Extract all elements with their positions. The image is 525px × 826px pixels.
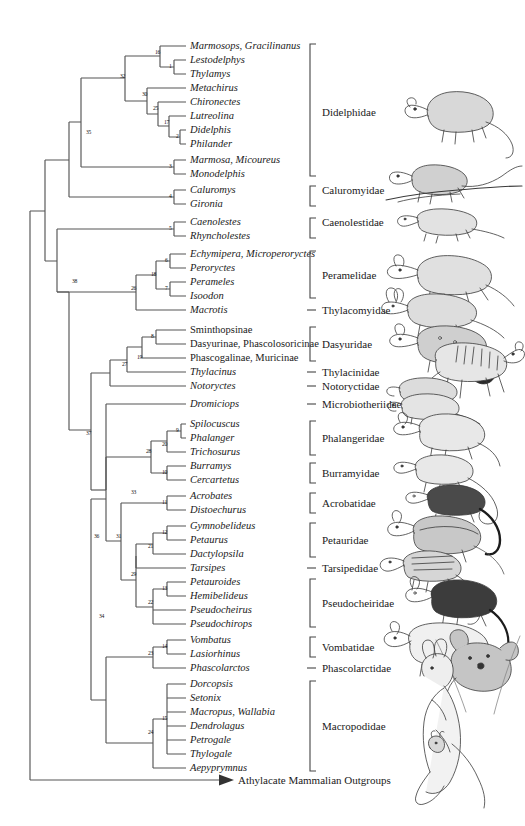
node-number: 36 <box>94 533 99 539</box>
family-label: Phascolarctidae <box>322 662 391 674</box>
family-label: Macropodidae <box>322 720 386 732</box>
family-label: Dasyuridae <box>322 338 372 350</box>
node-number: 26 <box>131 285 136 291</box>
family-label: Phalangeridae <box>322 432 384 444</box>
family-label: Microbiotheriidae <box>322 398 401 410</box>
node-number: 9 <box>176 427 179 433</box>
node-number: 38 <box>72 278 77 284</box>
node-number: 12 <box>162 529 167 535</box>
node-number: 33 <box>131 489 136 495</box>
family-label: Acrobatidae <box>322 497 376 509</box>
node-number: 37 <box>86 430 91 436</box>
family-label: Thylacomyidae <box>322 304 390 316</box>
node-number: 31 <box>116 533 121 539</box>
node-number: 16 <box>155 49 160 55</box>
node-number: 6 <box>165 257 168 263</box>
node-number: 2 <box>176 133 179 139</box>
node-number: 4 <box>169 193 172 199</box>
node-number: 19 <box>137 354 142 360</box>
node-number: 28 <box>146 448 151 454</box>
node-number: 30 <box>142 91 147 97</box>
family-brackets <box>0 0 525 826</box>
node-number: 34 <box>99 613 104 619</box>
node-number: 20 <box>162 441 167 447</box>
node-number: 3 <box>169 163 172 169</box>
node-number: 25 <box>153 105 158 111</box>
family-label: Didelphidae <box>322 106 376 118</box>
node-number: 1 <box>169 63 172 69</box>
node-number: 18 <box>151 271 156 277</box>
figure-canvas: Marmosops, Gracilinanus Lestodelphys Thy… <box>0 0 525 826</box>
node-number: 21 <box>148 543 153 549</box>
node-number: 17 <box>164 119 169 125</box>
node-number: 14 <box>162 643 167 649</box>
family-label: Caenolestidae <box>322 216 384 228</box>
family-label: Thylacinidae <box>322 366 379 378</box>
outgroup-label: Athylacate Mammalian Outgroups <box>238 774 391 786</box>
family-label: Peramelidae <box>322 269 376 281</box>
family-label: Petauridae <box>322 534 368 546</box>
node-number: 8 <box>151 333 154 339</box>
node-number: 15 <box>162 715 167 721</box>
family-label: Burramyidae <box>322 467 379 479</box>
node-number: 13 <box>162 585 167 591</box>
node-number: 11 <box>162 499 167 505</box>
node-number: 24 <box>148 729 153 735</box>
family-label: Tarsipedidae <box>322 562 378 574</box>
node-number: 23 <box>148 650 153 656</box>
family-label: Notoryctidae <box>322 380 379 392</box>
node-number: 5 <box>169 225 172 231</box>
node-number: 22 <box>148 599 153 605</box>
family-label: Vombatidae <box>322 641 374 653</box>
node-number: 29 <box>131 571 136 577</box>
node-number: 10 <box>162 469 167 475</box>
node-number: 35 <box>86 129 91 135</box>
family-label: Caluromyidae <box>322 184 384 196</box>
family-label: Pseudocheiridae <box>322 597 394 609</box>
node-number: 32 <box>120 73 125 79</box>
node-number: 7 <box>165 285 168 291</box>
node-number: 27 <box>122 361 127 367</box>
